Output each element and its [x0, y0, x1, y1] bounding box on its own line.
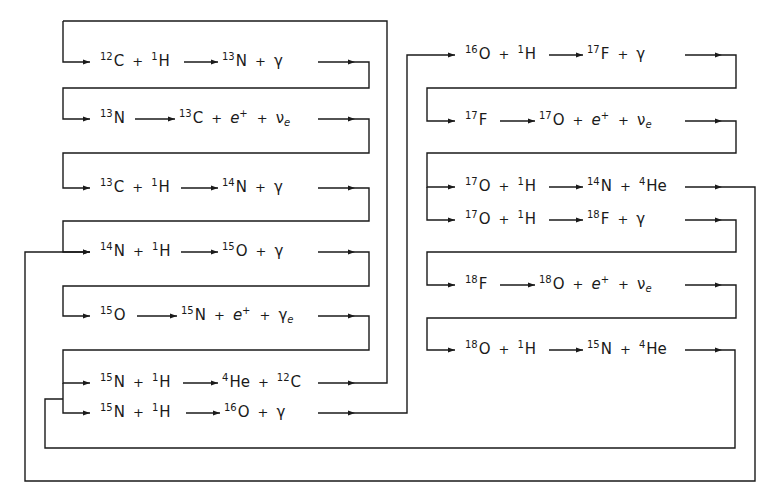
nuclide-C: 12C: [100, 52, 124, 69]
reaction-r10-reactants: 17O+1H: [465, 177, 536, 194]
nuclide-H: 1H: [151, 52, 170, 69]
plus-sign: +: [211, 111, 222, 126]
nuclide-H: 1H: [517, 177, 536, 194]
nuclide-N: 14N: [222, 178, 247, 195]
nuclide-O: 15O: [100, 306, 126, 323]
nuclide-ν: νe: [637, 277, 652, 294]
return-line-n15: [45, 350, 735, 448]
nuclide-O: 17O: [465, 210, 491, 227]
nuclide-γ: γ: [636, 47, 645, 62]
plus-sign: +: [132, 54, 143, 69]
nuclide-γ: γe: [278, 308, 293, 325]
return-line-n14: [25, 187, 755, 481]
plus-sign: +: [499, 342, 510, 357]
nuclide-N: 15N: [100, 403, 125, 420]
plus-sign: +: [620, 342, 631, 357]
nuclide-O: 17O: [465, 177, 491, 194]
reaction-r12-products: 18O+e++νe: [539, 275, 652, 294]
nuclide-γ: γ: [276, 405, 285, 420]
plus-sign: +: [618, 277, 629, 292]
plus-sign: +: [255, 180, 266, 195]
reaction-r11-reactants: 17O+1H: [465, 210, 536, 227]
reaction-r4-reactants: 14N+1H: [100, 242, 171, 259]
nuclide-ν: νe: [276, 111, 291, 128]
nuclide-F: 18F: [465, 275, 487, 292]
plus-sign: +: [133, 244, 144, 259]
reaction-r6-products: 4He+12C: [222, 373, 301, 390]
reaction-r11-products: 18F+γ: [587, 210, 645, 227]
nuclide-e: e+: [591, 111, 610, 128]
reaction-r9-products: 17O+e++νe: [539, 111, 652, 130]
nuclide-γ: γ: [274, 54, 283, 69]
plus-sign: +: [573, 113, 584, 128]
nuclide-H: 1H: [152, 403, 171, 420]
nuclide-e: e+: [233, 306, 252, 323]
nuclide-γ: γ: [274, 180, 283, 195]
reaction-r13-products: 15N+4He: [587, 340, 667, 357]
nuclide-N: 14N: [100, 242, 125, 259]
reaction-r9-reactants: 17F: [465, 111, 487, 128]
nuclide-γ: γ: [636, 212, 645, 227]
plus-sign: +: [617, 47, 628, 62]
nuclide-H: 1H: [517, 340, 536, 357]
nuclide-C: 12C: [277, 373, 301, 390]
plus-sign: +: [256, 244, 267, 259]
cycle-return-line-c12: [63, 21, 387, 383]
nuclide-O: 18O: [465, 340, 491, 357]
reaction-r4-products: 15O+γ: [222, 242, 283, 259]
plus-sign: +: [255, 54, 266, 69]
plus-sign: +: [214, 308, 225, 323]
reaction-r3-reactants: 13C+1H: [100, 178, 170, 195]
nuclide-N: 13N: [222, 52, 247, 69]
reaction-r6-reactants: 15N+1H: [100, 373, 171, 390]
plus-sign: +: [620, 179, 631, 194]
plus-sign: +: [257, 111, 268, 126]
nuclide-H: 1H: [517, 45, 536, 62]
nuclide-e: e+: [230, 109, 249, 126]
reaction-r3-products: 14N+γ: [222, 178, 283, 195]
nuclide-N: 13N: [100, 109, 125, 126]
nuclide-O: 15O: [222, 242, 248, 259]
reaction-r5-products: 15N+e++γe: [181, 306, 293, 325]
nuclide-C: 13C: [179, 109, 203, 126]
nuclide-O: 16O: [465, 45, 491, 62]
nuclide-H: 1H: [152, 373, 171, 390]
plus-sign: +: [618, 113, 629, 128]
nuclide-N: 14N: [587, 177, 612, 194]
plus-sign: +: [617, 212, 628, 227]
reaction-r2-products: 13C+e++νe: [179, 109, 290, 128]
nuclide-γ: γ: [274, 244, 283, 259]
entry-arrow-r1: [63, 21, 90, 62]
nuclide-O: 16O: [224, 403, 250, 420]
reaction-r13-reactants: 18O+1H: [465, 340, 536, 357]
reaction-r8-reactants: 16O+1H: [465, 45, 536, 62]
nuclide-He: 4He: [639, 177, 667, 194]
nuclide-N: 15N: [181, 306, 206, 323]
nuclide-He: 4He: [639, 340, 667, 357]
plus-sign: +: [260, 308, 271, 323]
reaction-r1-products: 13N+γ: [222, 52, 283, 69]
nuclide-ν: νe: [637, 113, 652, 130]
reaction-r10-products: 14N+4He: [587, 177, 667, 194]
reaction-r5-reactants: 15O: [100, 306, 126, 323]
reaction-r1-reactants: 12C+1H: [100, 52, 170, 69]
nuclide-F: 17F: [587, 45, 609, 62]
nuclide-H: 1H: [152, 242, 171, 259]
nuclide-O: 18O: [539, 275, 565, 292]
reaction-r7-reactants: 15N+1H: [100, 403, 171, 420]
nuclide-He: 4He: [222, 373, 250, 390]
plus-sign: +: [499, 179, 510, 194]
plus-sign: +: [133, 375, 144, 390]
nuclide-C: 13C: [100, 178, 124, 195]
reaction-r12-reactants: 18F: [465, 275, 487, 292]
nuclide-N: 15N: [587, 340, 612, 357]
plus-sign: +: [499, 47, 510, 62]
nuclide-N: 15N: [100, 373, 125, 390]
plus-sign: +: [133, 405, 144, 420]
plus-sign: +: [258, 405, 269, 420]
reaction-r2-reactants: 13N: [100, 109, 125, 126]
plus-sign: +: [573, 277, 584, 292]
link-r7-r8: [355, 55, 455, 413]
plus-sign: +: [258, 375, 269, 390]
nuclide-e: e+: [591, 275, 610, 292]
